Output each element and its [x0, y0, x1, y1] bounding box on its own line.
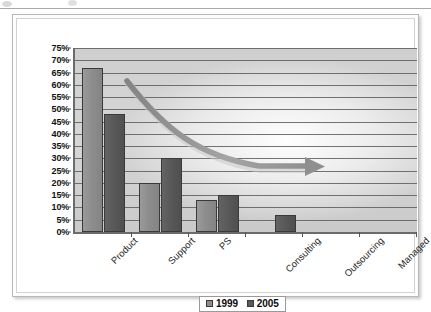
- y-tick-label: 65%: [52, 68, 69, 78]
- y-tick-mark: [68, 182, 71, 183]
- bar-group: [189, 48, 246, 232]
- bar-group: [246, 48, 303, 232]
- legend-swatch-2005: [247, 300, 254, 307]
- y-tick-mark: [68, 60, 71, 61]
- legend-label-2005: 2005: [257, 298, 279, 309]
- scan-artifact-smudge-right: [68, 0, 77, 6]
- bars-layer: [75, 48, 417, 232]
- x-category-label-support: Support: [166, 235, 197, 266]
- chart-frame-inner-border: 0%5%10%15%20%25%30%35%40%45%50%55%60%65%…: [16, 18, 415, 293]
- y-tick-mark: [68, 158, 71, 159]
- bar-2005-product[interactable]: [104, 114, 125, 232]
- y-tick-mark: [68, 84, 71, 85]
- x-axis-category-labels: ProductSupportPSConsultingOutsourcingMan…: [73, 235, 415, 293]
- y-tick-mark: [68, 170, 71, 171]
- y-tick-mark: [68, 133, 71, 134]
- scan-artifact-line: [0, 8, 431, 9]
- x-category-label-ps: PS: [217, 235, 234, 252]
- y-tick-mark: [68, 146, 71, 147]
- x-category-label-managed: Managed: [396, 235, 431, 271]
- x-category-label-consulting: Consulting: [283, 235, 323, 275]
- bar-1999-support[interactable]: [139, 183, 160, 232]
- y-tick-mark: [68, 72, 71, 73]
- plot-area: [73, 48, 417, 234]
- y-tick-label: 25%: [52, 166, 69, 176]
- bar-2005-support[interactable]: [161, 158, 182, 232]
- bar-2005-ps[interactable]: [218, 195, 239, 232]
- legend-label-1999: 1999: [216, 298, 238, 309]
- bar-group: [75, 48, 132, 232]
- x-category-label-outsourcing: Outsourcing: [342, 235, 386, 279]
- y-tick-mark: [68, 97, 71, 98]
- bar-group: [132, 48, 189, 232]
- y-tick-mark: [68, 109, 71, 110]
- y-tick-label: 15%: [52, 190, 69, 200]
- x-category-label-product: Product: [109, 235, 140, 266]
- y-tick-mark: [68, 232, 71, 233]
- y-tick-label: 45%: [52, 117, 69, 127]
- y-tick-label: 70%: [52, 55, 69, 65]
- bar-group: [303, 48, 360, 232]
- y-tick-label: 10%: [52, 202, 69, 212]
- y-tick-label: 35%: [52, 141, 69, 151]
- y-axis: 0%5%10%15%20%25%30%35%40%45%50%55%60%65%…: [29, 48, 71, 232]
- y-tick-mark: [68, 195, 71, 196]
- y-tick-label: 60%: [52, 80, 69, 90]
- x-tick-mark: [416, 232, 417, 237]
- y-tick-label: 40%: [52, 129, 69, 139]
- y-tick-mark: [68, 48, 71, 49]
- scan-artifact-smudge-left: [2, 1, 12, 7]
- legend-swatch-1999: [206, 300, 213, 307]
- y-tick-mark: [68, 219, 71, 220]
- chart-legend: 19992005: [199, 296, 286, 312]
- legend-entry-2005[interactable]: 2005: [247, 298, 279, 309]
- bar-group: [360, 48, 417, 232]
- y-tick-label: 20%: [52, 178, 69, 188]
- bar-1999-ps[interactable]: [196, 200, 217, 232]
- legend-entry-1999[interactable]: 1999: [206, 298, 238, 309]
- bar-2005-consulting[interactable]: [275, 215, 296, 232]
- y-tick-mark: [68, 121, 71, 122]
- chart-frame: 0%5%10%15%20%25%30%35%40%45%50%55%60%65%…: [12, 14, 419, 297]
- y-tick-label: 55%: [52, 92, 69, 102]
- y-tick-label: 30%: [52, 153, 69, 163]
- bar-1999-product[interactable]: [82, 68, 103, 232]
- y-tick-mark: [68, 207, 71, 208]
- y-tick-label: 75%: [52, 43, 69, 53]
- y-tick-label: 50%: [52, 104, 69, 114]
